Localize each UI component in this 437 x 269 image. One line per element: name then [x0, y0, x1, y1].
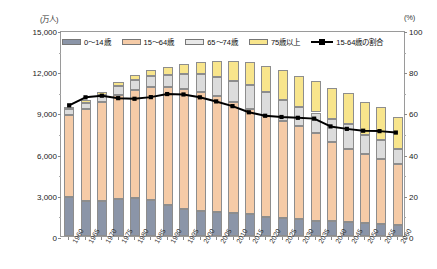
ratio-line-marker: [181, 92, 185, 96]
legend-swatch-icon: [122, 39, 141, 45]
y2-tick-mark: [404, 156, 407, 157]
x-tick-mark: [348, 237, 349, 240]
x-tick-mark: [298, 237, 299, 240]
ratio-line-marker: [361, 129, 365, 133]
y-tick-label: 3,000: [37, 192, 57, 201]
legend-line-marker-icon: [311, 39, 333, 45]
y-tick-label: 6,000: [37, 151, 57, 160]
ratio-line-marker: [100, 94, 104, 98]
y-tick-mark: [58, 114, 61, 115]
legend-item-2: 15～64歳: [122, 36, 175, 47]
legend-item-1: 0～14歳: [62, 36, 111, 47]
x-tick-mark: [364, 237, 365, 240]
y-tick-mark: [58, 156, 61, 157]
legend-swatch-icon: [249, 39, 268, 45]
x-tick-mark: [216, 237, 217, 240]
y2-tick-mark-minor: [404, 53, 406, 54]
legend-label: 75歳以上: [271, 36, 300, 47]
ratio-line-marker: [296, 116, 300, 120]
y2-tick-label: 100: [409, 28, 422, 37]
population-chart: (万人) (%) 03,0006,0009,00012,00015,000 02…: [0, 0, 437, 269]
ratio-line-marker: [377, 129, 381, 133]
y-tick-label: 12,000: [33, 69, 57, 78]
x-tick-mark: [249, 237, 250, 240]
ratio-line-marker: [165, 92, 169, 96]
legend-item-4: 75歳以上: [249, 36, 300, 47]
ratio-line-marker: [328, 124, 332, 128]
y2-tick-label: 60: [409, 110, 418, 119]
y2-tick-mark-minor: [404, 94, 406, 95]
ratio-line-marker: [394, 130, 398, 134]
x-axis-labels: 1960196519701975198019851990199520002005…: [60, 238, 405, 269]
y-tick-mark: [58, 197, 61, 198]
x-tick-mark: [134, 237, 135, 240]
ratio-line-marker: [214, 99, 218, 103]
x-tick-mark: [331, 237, 332, 240]
y2-tick-label: 20: [409, 192, 418, 201]
legend-swatch-icon: [185, 39, 204, 45]
y-axis-unit-label: (万人): [40, 13, 58, 24]
x-tick-mark: [68, 237, 69, 240]
legend-item-3: 65～74歳: [185, 36, 238, 47]
x-tick-mark: [118, 237, 119, 240]
x-tick-mark: [265, 237, 266, 240]
ratio-line-marker: [230, 104, 234, 108]
y-tick-label: 9,000: [37, 110, 57, 119]
legend-label: 15-64歳の割合: [336, 36, 383, 47]
ratio-line-marker: [198, 95, 202, 99]
ratio-line-marker: [149, 95, 153, 99]
legend-swatch-icon: [62, 39, 81, 45]
y2-tick-mark: [404, 32, 407, 33]
y2-tick-mark: [404, 73, 407, 74]
y2-tick-label: 40: [409, 151, 418, 160]
y2-tick-mark: [404, 197, 407, 198]
y2-tick-label: 80: [409, 69, 418, 78]
x-tick-mark: [200, 237, 201, 240]
x-tick-mark: [315, 237, 316, 240]
y-tick-mark: [58, 73, 61, 74]
ratio-line-marker: [279, 115, 283, 119]
plot-inner: [61, 32, 404, 236]
y2-tick-mark-minor: [404, 135, 406, 136]
legend-label: 65～74歳: [207, 36, 238, 47]
y2-tick-mark-minor: [404, 217, 406, 218]
y-tick-mark-minor: [59, 135, 61, 136]
ratio-line-marker: [132, 97, 136, 101]
ratio-line-marker: [263, 114, 267, 118]
x-tick-mark: [101, 237, 102, 240]
y-tick-mark-minor: [59, 217, 61, 218]
y-tick-mark: [58, 32, 61, 33]
ratio-line-marker: [67, 103, 71, 107]
x-tick-mark: [150, 237, 151, 240]
y-tick-mark-minor: [59, 53, 61, 54]
y2-tick-mark: [404, 114, 407, 115]
y-tick-label: 0: [53, 234, 57, 243]
x-tick-mark: [167, 237, 168, 240]
x-tick-mark: [233, 237, 234, 240]
y-tick-mark-minor: [59, 176, 61, 177]
y-tick-mark-minor: [59, 94, 61, 95]
x-tick-mark: [282, 237, 283, 240]
y-tick-label: 15,000: [33, 28, 57, 37]
x-tick-mark: [183, 237, 184, 240]
y2-axis-unit-label: (%): [404, 13, 415, 22]
x-tick-mark: [397, 237, 398, 240]
ratio-line-marker: [116, 96, 120, 100]
chart-legend: 0～14歳15～64歳65～74歳75歳以上15-64歳の割合: [62, 36, 383, 47]
plot-area: 03,0006,0009,00012,00015,000 02040608010…: [60, 31, 405, 237]
y2-tick-mark-minor: [404, 176, 406, 177]
ratio-line-marker: [345, 127, 349, 131]
legend-label: 0～14歳: [84, 36, 111, 47]
legend-item-5: 15-64歳の割合: [311, 36, 383, 47]
legend-label: 15～64歳: [144, 36, 175, 47]
ratio-line-marker: [247, 110, 251, 114]
ratio-line-marker: [312, 117, 316, 121]
ratio-line-layer: [61, 32, 404, 236]
ratio-line-marker: [83, 95, 87, 99]
x-tick-mark: [380, 237, 381, 240]
x-tick-mark: [85, 237, 86, 240]
